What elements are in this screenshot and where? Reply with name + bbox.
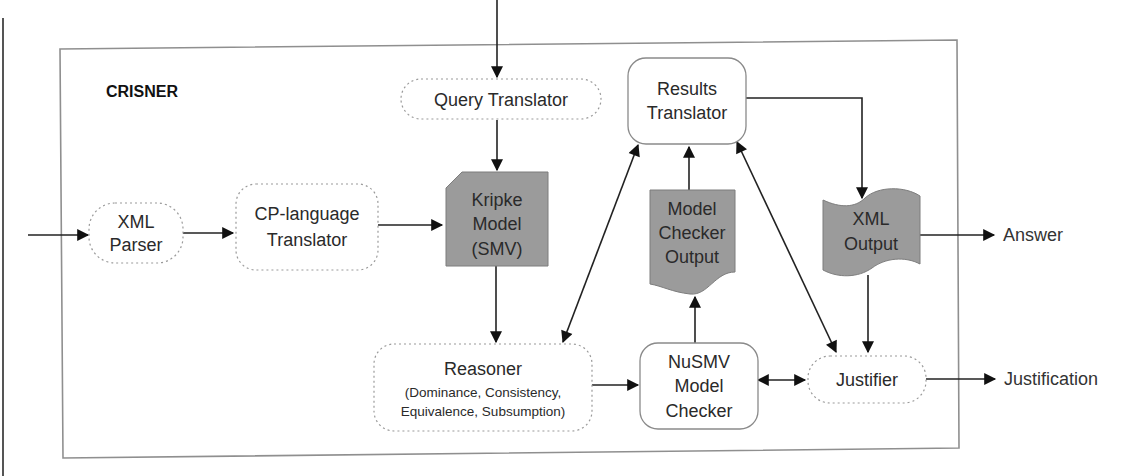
- output-justification-label: Justification: [1004, 369, 1098, 389]
- kripke-label-line1: Kripke: [471, 190, 522, 210]
- node-xml-parser: XML Parser: [89, 203, 183, 263]
- edge-results-translator-to-xml-output: [746, 98, 862, 198]
- reasoner-label-line2: (Dominance, Consistency,: [405, 385, 562, 400]
- edge-reasoner-results-translator: [563, 145, 638, 342]
- kripke-label-line2: Model: [472, 214, 521, 234]
- system-label: CRISNER: [106, 83, 178, 100]
- query-translator-label: Query Translator: [434, 90, 568, 110]
- crisner-architecture-diagram: CRISNER XML: [0, 0, 1138, 476]
- nusmv-label-line2: Model: [674, 376, 723, 396]
- kripke-label-line3: (SMV): [472, 239, 523, 259]
- results-translator-label-line2: Translator: [647, 103, 727, 123]
- results-translator-label-line1: Results: [657, 79, 717, 99]
- xml-parser-label-line2: Parser: [109, 235, 162, 255]
- xml-output-label-line1: XML: [852, 209, 889, 229]
- node-results-translator: Results Translator: [628, 58, 746, 144]
- node-justifier: Justifier: [808, 356, 926, 403]
- nusmv-label-line3: Checker: [665, 401, 732, 421]
- cp-translator-label-line1: CP-language: [254, 204, 359, 224]
- xml-parser-label-line1: XML: [117, 212, 154, 232]
- reasoner-label-line3: Equivalence, Subsumption): [401, 404, 565, 419]
- node-model-checker-output: Model Checker Output: [650, 190, 735, 294]
- nusmv-label-line1: NuSMV: [668, 352, 730, 372]
- mc-output-label-line3: Output: [665, 247, 719, 267]
- mc-output-label-line2: Checker: [658, 223, 725, 243]
- node-nusmv-model-checker: NuSMV Model Checker: [640, 343, 758, 429]
- output-answer-label: Answer: [1003, 225, 1063, 245]
- node-reasoner: Reasoner (Dominance, Consistency, Equiva…: [374, 344, 592, 431]
- node-kripke-model: Kripke Model (SMV): [446, 172, 548, 266]
- mc-output-label-line1: Model: [667, 199, 716, 219]
- node-cp-language-translator: CP-language Translator: [236, 184, 378, 270]
- cp-translator-label-line2: Translator: [267, 230, 347, 250]
- reasoner-label-title: Reasoner: [444, 359, 522, 379]
- justifier-label: Justifier: [836, 370, 898, 390]
- node-xml-output: XML Output: [823, 189, 920, 276]
- xml-output-label-line2: Output: [844, 234, 898, 254]
- node-query-translator: Query Translator: [401, 79, 601, 119]
- edge-results-translator-justifier: [737, 142, 836, 352]
